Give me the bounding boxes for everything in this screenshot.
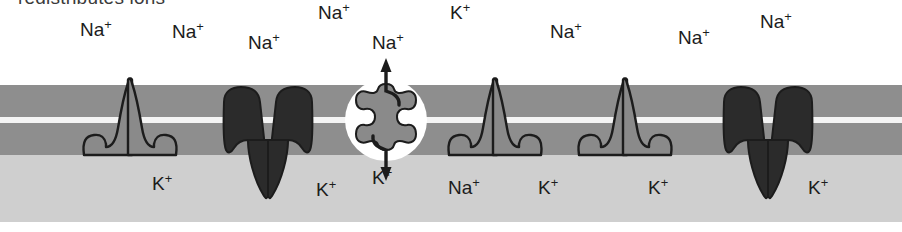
- ion-label-extracellular: Na+: [248, 33, 280, 52]
- ion-label-intracellular: K+: [152, 174, 172, 193]
- ion-label-intracellular: K+: [538, 178, 558, 197]
- ion-label-extracellular: Na+: [760, 12, 792, 31]
- ion-channel-light-1: [83, 79, 176, 155]
- ion-label-extracellular: Na+: [550, 22, 582, 41]
- ion-label-extracellular: Na+: [678, 28, 710, 47]
- ion-label-extracellular: Na+: [172, 22, 204, 41]
- ion-label-intracellular: K+: [808, 178, 828, 197]
- ion-label-intracellular: K+: [648, 178, 668, 197]
- ion-channel-dark-2: [224, 87, 313, 198]
- ion-label-pore-influx: Na+: [372, 33, 404, 52]
- transmembrane-pore: [345, 58, 427, 181]
- ion-label-extracellular: K+: [450, 3, 470, 22]
- membrane-ion-redistribution-diagram: redistributes ions: [0, 0, 902, 232]
- ion-label-intracellular: K+: [316, 180, 336, 199]
- ion-channel-light-5: [578, 79, 671, 155]
- ion-channel-dark-6: [724, 87, 813, 198]
- ion-label-intracellular: Na+: [448, 178, 480, 197]
- ion-channel-light-4: [448, 79, 541, 155]
- ion-label-pore-efflux: K+: [372, 168, 392, 187]
- ion-label-extracellular: Na+: [318, 3, 350, 22]
- ion-label-extracellular: Na+: [80, 20, 112, 39]
